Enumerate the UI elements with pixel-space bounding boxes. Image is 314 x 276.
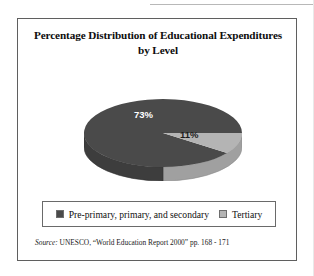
pie-label-major: 73%: [134, 109, 153, 120]
source-text: UNESCO, “World Education Report 2000” pp…: [60, 238, 230, 247]
legend-swatch-icon-primary: [56, 210, 64, 218]
legend-swatch-icon-tertiary: [219, 210, 227, 218]
chart-title: Percentage Distribution of Educational E…: [32, 28, 284, 58]
pie-label-minor: 11%: [180, 129, 199, 140]
legend-label-tertiary: Tertiary: [232, 209, 262, 220]
pie-chart-svg: [84, 85, 242, 181]
legend-item-tertiary: Tertiary: [219, 209, 262, 220]
legend-label-primary: Pre-primary, primary, and secondary: [69, 209, 209, 220]
scan-artifact-line: [150, 4, 314, 5]
figure-frame: Percentage Distribution of Educational E…: [17, 18, 297, 261]
source-label: Source:: [35, 238, 58, 247]
pie-chart: 73% 11%: [84, 85, 242, 181]
legend-item-primary: Pre-primary, primary, and secondary: [56, 209, 209, 220]
source-note: Source: UNESCO, “World Education Report …: [35, 238, 229, 247]
scan-edge-right: [313, 0, 314, 276]
chart-legend: Pre-primary, primary, and secondary Tert…: [42, 201, 276, 227]
